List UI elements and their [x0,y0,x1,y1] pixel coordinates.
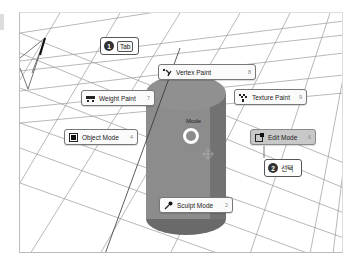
pie-item-label: Sculpt Mode [177,202,221,209]
pie-item-edit-mode[interactable]: Edit Mode 6 [250,129,316,145]
edit-mode-icon [255,133,264,142]
vertex-paint-icon [163,68,172,77]
shortcut-key: 2 [225,202,228,208]
step-badge: 1 [104,41,114,51]
pie-item-weight-paint[interactable]: Weight Paint 7 [81,90,155,106]
pie-item-label: Vertex Paint [176,69,244,76]
shortcut-key: 7 [147,95,150,101]
pie-item-label: Weight Paint [99,95,143,102]
step-1-callout: 1 Tab [100,37,139,55]
pie-item-label: Texture Paint [252,94,295,101]
pie-menu-title: Mode [186,118,201,124]
texture-paint-icon [239,93,248,102]
pie-item-vertex-paint[interactable]: Vertex Paint 8 [158,64,256,80]
pie-item-label: Edit Mode [268,134,304,141]
shortcut-key: 8 [248,69,251,75]
callout-pointer-line [256,146,268,168]
tab-keycap: Tab [117,41,133,52]
pie-center-ring [183,128,199,144]
object-mode-icon [69,133,78,142]
pie-item-label: Object Mode [82,134,126,141]
panel-edge-tab [0,14,4,30]
shortcut-key: 6 [308,134,311,140]
pie-item-object-mode[interactable]: Object Mode 4 [64,129,138,145]
step-badge: 2 [268,163,278,173]
shortcut-key: 4 [130,134,133,140]
object-origin-icon [202,148,214,160]
select-text: 선택 [281,163,293,173]
sculpt-mode-icon [164,201,173,210]
shortcut-key: 9 [299,94,302,100]
step-2-callout: 2 선택 [264,159,302,177]
weight-paint-icon [86,94,95,103]
pie-item-texture-paint[interactable]: Texture Paint 9 [234,89,307,105]
pie-item-sculpt-mode[interactable]: Sculpt Mode 2 [159,197,233,213]
